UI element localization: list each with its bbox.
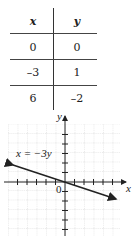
table-cell-y: 1 xyxy=(57,67,97,79)
table-cell-y: 0 xyxy=(57,42,97,54)
xy-value-table: x y 0 0 –3 1 6 –2 xyxy=(0,0,135,112)
table-row-divider xyxy=(10,85,97,86)
origin-label: 0 xyxy=(56,183,62,195)
table-cell-x: 6 xyxy=(13,93,53,105)
equation-label: x = −3y xyxy=(15,147,52,159)
table-header-y: y xyxy=(57,16,97,28)
table-row-divider xyxy=(10,59,97,60)
x-axis-label: x xyxy=(125,182,131,194)
table-header-divider xyxy=(10,33,97,34)
table-cell-x: 0 xyxy=(13,42,53,54)
table-cell-x: –3 xyxy=(13,67,53,79)
table-cell-y: –2 xyxy=(57,93,97,105)
coordinate-graph: y x 0 x = −3y xyxy=(0,110,135,250)
y-axis-label: y xyxy=(56,110,62,122)
table-header-x: x xyxy=(13,16,53,28)
